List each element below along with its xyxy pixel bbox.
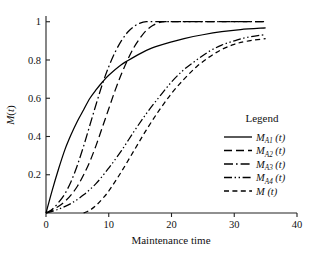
y-tick-label: 0.6 [28,93,41,104]
legend-label-2: MA2 (t) [255,145,286,158]
legend-label-4: MA4 (t) [255,172,286,185]
legend-title: Legend [246,112,279,124]
y-tick-label: 0.4 [28,131,42,142]
y-axis-ticks: 0.20.40.60.81 [28,16,50,180]
legend-label-3: MA3 (t) [255,159,286,172]
curve-5 [84,39,266,213]
curve-1 [46,28,266,213]
x-axis-ticks: 010203040 [43,213,302,230]
legend-label-1: MA1 (t) [255,132,286,145]
curve-4 [46,35,266,213]
x-axis-title: Maintenance time [131,234,210,246]
y-tick-label: 0.2 [28,169,41,180]
maintenance-curve-chart: 010203040 0.20.40.60.81 Maintenance time… [0,0,315,261]
y-axis-title: M(t) [4,105,17,126]
x-tick-label: 40 [292,219,303,230]
y-tick-label: 0.8 [28,55,41,66]
x-tick-label: 0 [43,219,48,230]
data-curves [46,22,266,213]
legend: Legend MA1 (t)MA2 (t)MA3 (t)MA4 (t)M (t) [224,112,286,198]
x-tick-label: 20 [166,219,177,230]
legend-label-5: M (t) [255,186,278,198]
y-tick-label: 1 [36,16,41,27]
x-tick-label: 10 [104,219,115,230]
x-tick-label: 30 [229,219,240,230]
